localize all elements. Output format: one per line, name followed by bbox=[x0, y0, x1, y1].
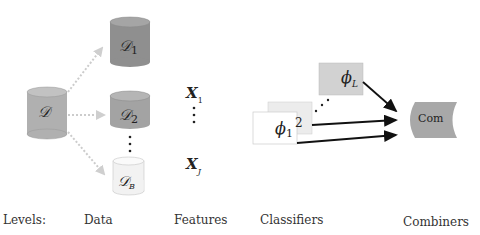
dataset-source-label: 𝒟 bbox=[38, 103, 50, 121]
classifier-phi2-label: 2 bbox=[295, 113, 303, 131]
dataset-db-label: 𝒟B bbox=[118, 173, 135, 191]
feature-ellipsis bbox=[193, 107, 196, 124]
classifier-phiL-text: ϕ bbox=[341, 68, 352, 87]
dataset-db-text: 𝒟 bbox=[118, 173, 129, 189]
feature-x1-text: X bbox=[186, 84, 198, 102]
classifier-phiL-sub: L bbox=[352, 79, 358, 89]
feature-xj-text: X bbox=[186, 155, 198, 173]
dataset-d2-text: 𝒟 bbox=[119, 106, 131, 124]
classifier-phi1-sub: 1 bbox=[286, 127, 293, 140]
combiner-com-text: Com bbox=[418, 112, 443, 125]
dataset-d1-text: 𝒟 bbox=[119, 37, 131, 55]
diagram-canvas bbox=[0, 0, 480, 235]
dataset-d1-label: 𝒟1 bbox=[119, 37, 138, 57]
classifier-phi2-sub: 2 bbox=[295, 116, 303, 130]
dataset-ellipsis bbox=[129, 136, 132, 153]
combiner-com-label: Com bbox=[418, 112, 443, 125]
level-features: Features bbox=[174, 213, 227, 227]
dataset-d2-sub: 2 bbox=[131, 113, 138, 126]
level-data: Data bbox=[84, 213, 113, 227]
level-combiners: Combiners bbox=[403, 215, 469, 229]
dataset-d2-label: 𝒟2 bbox=[119, 106, 138, 126]
split-arrows bbox=[68, 48, 104, 174]
level-classifiers: Classifiers bbox=[260, 213, 323, 227]
classifier-phi1-text: ϕ bbox=[275, 119, 286, 138]
feature-xj-sub: J bbox=[198, 167, 201, 176]
feature-x1-label: X1 bbox=[186, 84, 203, 105]
levels-title: Levels: bbox=[3, 213, 46, 227]
classifier-phi1-label: ϕ1 bbox=[275, 119, 293, 140]
dataset-db-sub: B bbox=[129, 182, 135, 191]
dataset-d1-sub: 1 bbox=[131, 44, 138, 57]
feature-x1-sub: 1 bbox=[198, 96, 203, 105]
feature-xj-label: XJ bbox=[186, 155, 201, 176]
dataset-source-text: 𝒟 bbox=[38, 103, 50, 121]
classifier-ellipsis bbox=[315, 99, 329, 112]
classifier-phiL-label: ϕL bbox=[341, 68, 358, 89]
